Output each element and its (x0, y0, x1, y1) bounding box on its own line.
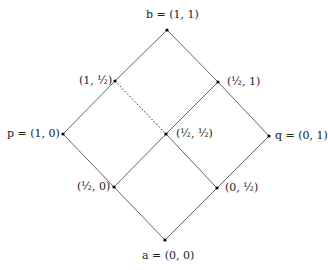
edge-half1-q (218, 82, 269, 136)
node-half0 (112, 185, 115, 188)
edge-dotted-1half-center (115, 81, 166, 134)
label-half0: (½, 0) (77, 181, 110, 193)
edge-b-1half (115, 30, 167, 81)
label-b: b = (1, 1) (146, 9, 199, 21)
label-center: (½, ½) (176, 128, 213, 140)
label-a: a = (0, 0) (142, 250, 194, 262)
node-1half (113, 79, 116, 82)
node-a (163, 238, 166, 241)
node-q (267, 134, 270, 137)
label-1half: (1, ½) (79, 75, 112, 87)
edge-center-half0 (114, 134, 166, 187)
edge-1half-p (63, 81, 115, 134)
edge-center-0half (166, 134, 217, 188)
label-half1: (½, 1) (227, 76, 260, 88)
label-p: p = (1, 0) (7, 128, 60, 140)
edge-half0-a (114, 187, 165, 240)
edge-0half-a (165, 188, 217, 240)
node-0half (215, 186, 218, 189)
edge-b-half1 (167, 30, 218, 82)
node-center (164, 132, 167, 135)
node-half1 (216, 80, 219, 83)
node-p (61, 132, 64, 135)
label-0half: (0, ½) (225, 182, 258, 194)
node-b (165, 28, 168, 31)
label-q: q = (0, 1) (275, 130, 328, 142)
